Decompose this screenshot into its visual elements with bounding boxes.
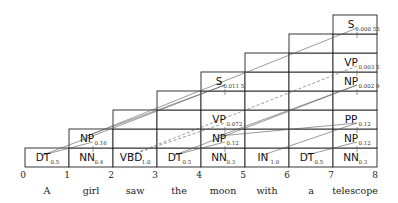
sentence-word: A — [43, 185, 51, 196]
sentence-word: girl — [83, 185, 100, 196]
chart-cell — [333, 34, 377, 53]
chart-cell — [333, 91, 377, 110]
chart-cell — [157, 110, 201, 129]
chart-cell — [289, 72, 333, 91]
nonterminal-label: NN — [343, 151, 359, 163]
nonterminal-label: NP — [344, 75, 358, 87]
nonterminal-label: NN — [211, 151, 227, 163]
nonterminal-label: NP — [344, 132, 358, 144]
probability-subscript: 1.0 — [142, 159, 151, 165]
probability-subscript: 0.002 9 — [359, 83, 380, 89]
chart-cell — [289, 53, 333, 72]
sentence-words: Agirlsawthemoonwithatelescope — [43, 185, 379, 196]
chart-cell — [245, 72, 289, 91]
probability-subscript: 0.072 — [227, 121, 243, 127]
sentence-word: with — [256, 185, 277, 196]
chart-cell — [245, 53, 289, 72]
position-tick: 1 — [64, 170, 70, 180]
cky-chart: DT0.5NN0.4NP0.16VBD1.0DT0.5NN0.3NP0.12VP… — [0, 0, 398, 203]
chart-cell — [245, 91, 289, 110]
probability-subscript: 0.5 — [315, 159, 324, 165]
chart-cell — [289, 34, 333, 53]
position-tick: 5 — [240, 170, 246, 180]
probability-subscript: 0.4 — [95, 159, 104, 165]
probability-subscript: 0.5 — [51, 159, 60, 165]
nonterminal-label: S — [348, 18, 355, 30]
position-tick: 7 — [328, 170, 334, 180]
probability-subscript: 0.011 5 — [223, 83, 244, 89]
position-tick: 4 — [196, 170, 202, 180]
probability-subscript: 0.000 55 — [355, 26, 380, 32]
nonterminal-label: NN — [79, 151, 95, 163]
nonterminal-label: PP — [345, 113, 358, 125]
nonterminal-label: DT — [36, 151, 51, 163]
probability-subscript: 0.12 — [359, 140, 371, 146]
nonterminal-label: DT — [168, 151, 183, 163]
nonterminal-label: VP — [212, 113, 226, 125]
probability-subscript: 0.3 — [227, 159, 236, 165]
nonterminal-label: IN — [258, 151, 269, 163]
nonterminal-label: NP — [212, 132, 226, 144]
chart-cell — [113, 129, 157, 148]
probability-subscript: 0.3 — [359, 159, 368, 165]
sentence-word: a — [308, 185, 314, 196]
chart-cells — [25, 15, 377, 167]
sentence-word: the — [171, 185, 187, 196]
probability-subscript: 0.12 — [227, 140, 239, 146]
chart-cell — [157, 91, 201, 110]
position-axis: 012345678 — [20, 170, 378, 180]
probability-subscript: 0.12 — [359, 121, 371, 127]
probability-subscript: 0.5 — [183, 159, 192, 165]
position-tick: 3 — [152, 170, 158, 180]
sentence-word: saw — [126, 185, 145, 196]
position-tick: 8 — [372, 170, 378, 180]
chart-cell — [201, 91, 245, 110]
nonterminal-label: VP — [344, 56, 358, 68]
nonterminal-label: S — [216, 75, 223, 87]
nonterminal-label: DT — [300, 151, 315, 163]
position-tick: 2 — [108, 170, 114, 180]
sentence-word: telescope — [332, 185, 378, 196]
chart-cell — [289, 91, 333, 110]
position-tick: 0 — [20, 170, 26, 180]
probability-subscript: 1.0 — [271, 159, 280, 165]
chart-cell — [245, 129, 289, 148]
sentence-word: moon — [210, 185, 237, 196]
nonterminal-label: VBD — [120, 151, 142, 163]
nonterminal-label: NP — [80, 132, 94, 144]
probability-subscript: 0.16 — [95, 140, 108, 146]
probability-subscript: 0.003 5 — [359, 64, 380, 70]
position-tick: 6 — [284, 170, 290, 180]
